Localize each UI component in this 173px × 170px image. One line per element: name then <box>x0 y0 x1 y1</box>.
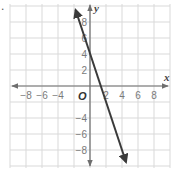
y-tick-label: −4 <box>76 113 88 124</box>
y-tick-label: 2 <box>81 65 87 76</box>
x-tick-label: −6 <box>36 90 48 101</box>
x-axis-label: x <box>163 71 170 83</box>
y-tick-label: −8 <box>76 145 88 156</box>
x-tick-label: −8 <box>20 90 32 101</box>
origin-label: O <box>78 90 87 102</box>
corner-mark: . <box>1 0 4 13</box>
x-tick-label: −4 <box>52 90 64 101</box>
axes <box>12 5 168 166</box>
coordinate-plane: −8−6−424688642−4−6−8 x y O . <box>0 0 173 170</box>
x-tick-label: 6 <box>135 90 141 101</box>
x-tick-label: 8 <box>151 90 157 101</box>
y-axis-label: y <box>92 2 99 14</box>
y-tick-label: 4 <box>81 49 87 60</box>
y-tick-label: −6 <box>76 129 88 140</box>
x-tick-label: 4 <box>119 90 125 101</box>
y-tick-label: 8 <box>81 17 87 28</box>
